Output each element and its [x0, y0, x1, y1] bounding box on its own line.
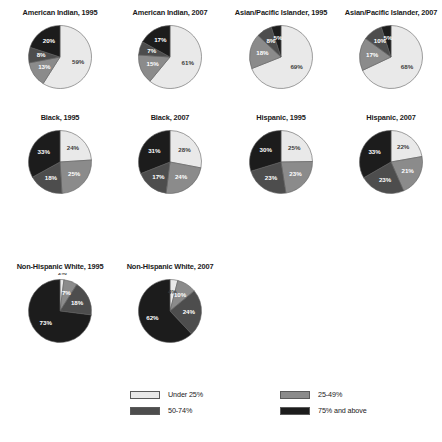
pie-slice-label: 30% — [260, 146, 273, 153]
pie-chart-graphic: 22%21%23%33% — [336, 124, 442, 202]
pie-slice-label: 18% — [71, 299, 84, 306]
legend-item: 25-49% — [280, 390, 342, 399]
legend-item-label: 50-74% — [168, 406, 192, 415]
pie-chart-title: Non-Hispanic White, 2007 — [115, 262, 225, 271]
pie-chart-cell: Asian/Pacific Islander, 200768%17%10%5% — [336, 8, 442, 97]
pie-chart-cell: American Indian, 199559%13%8%20% — [5, 8, 115, 97]
legend-item: 50-74% — [130, 406, 192, 415]
pie-slice-label: 61% — [182, 59, 195, 66]
pie-chart-grid-figure: American Indian, 199559%13%8%20%American… — [0, 0, 442, 442]
pie-chart-title: Non-Hispanic White, 1995 — [5, 262, 115, 271]
pie-slice-label: 59% — [72, 58, 85, 65]
pie-slice-label: 24% — [183, 308, 196, 315]
pie-slice-label: 23% — [379, 176, 392, 183]
pie-chart-cell: Non-Hispanic White, 19952%7%18%73% — [5, 262, 115, 351]
legend-color-swatch — [280, 407, 310, 415]
pie-slice-label: 18% — [256, 49, 269, 56]
pie-slice-label: 17% — [154, 36, 167, 43]
pie-slice-label: 33% — [38, 148, 51, 155]
legend-item-label: 25-49% — [318, 390, 342, 399]
pie-slice-label: 17% — [152, 173, 165, 180]
legend-color-swatch — [280, 391, 310, 399]
pie-slice-label: 17% — [366, 51, 379, 58]
pie-chart-graphic: 25%23%23%30% — [226, 124, 336, 202]
pie-chart-graphic: 28%24%17%31% — [115, 124, 225, 202]
pie-slice-label: 15% — [146, 60, 159, 67]
pie-slice-label: 28% — [178, 146, 191, 153]
pie-slice-label: 73% — [40, 319, 53, 326]
pie-slice-label: 24% — [175, 173, 188, 180]
legend-item-label: Under 25% — [168, 390, 203, 399]
legend-item-label: 75% and above — [318, 406, 367, 415]
pie-slice-label: 25% — [288, 144, 301, 151]
pie-slice-label: 23% — [289, 170, 302, 177]
pie-slice-label: 10% — [174, 291, 187, 298]
pie-chart-graphic: 59%13%8%20% — [5, 19, 115, 97]
pie-chart-graphic: 24%25%18%33% — [5, 124, 115, 202]
pie-slice-label: 62% — [146, 314, 159, 321]
pie-chart-title: Black, 1995 — [5, 113, 115, 122]
pie-chart-title: American Indian, 1995 — [5, 8, 115, 17]
pie-chart-graphic: 61%15%7%17% — [115, 19, 225, 97]
pie-chart-cell: American Indian, 200761%15%7%17% — [115, 8, 225, 97]
pie-slice-label: 2% — [58, 273, 67, 276]
pie-chart-title: Hispanic, 2007 — [336, 113, 442, 122]
pie-chart-graphic: 4%10%24%62% — [115, 273, 225, 351]
pie-slice-label: 23% — [265, 174, 278, 181]
pie-slice-label: 22% — [397, 143, 410, 150]
pie-slice-label: 68% — [401, 63, 414, 70]
pie-slice-label: 7% — [147, 47, 156, 54]
chart-legend: Under 25%25-49%50-74%75% and above — [0, 388, 442, 430]
pie-chart-title: Hispanic, 1995 — [226, 113, 336, 122]
legend-item: Under 25% — [130, 390, 203, 399]
pie-slice-label: 25% — [68, 170, 81, 177]
legend-item: 75% and above — [280, 406, 367, 415]
pie-slice-label: 8% — [37, 51, 46, 58]
pie-slice-label: 7% — [62, 289, 71, 296]
pie-chart-title: Asian/Pacific Islander, 1995 — [226, 8, 336, 17]
legend-color-swatch — [130, 407, 160, 415]
pie-slice-label: 33% — [368, 148, 381, 155]
pie-slice-label: 20% — [43, 37, 56, 44]
pie-slice-label: 18% — [45, 174, 58, 181]
pie-chart-graphic: 69%18%8%5% — [226, 19, 336, 97]
pie-slice-label: 5% — [384, 34, 393, 41]
pie-slice-label: 13% — [38, 63, 51, 70]
pie-slice-label: 21% — [401, 167, 414, 174]
pie-chart-title: American Indian, 2007 — [115, 8, 225, 17]
pie-chart-cell: Non-Hispanic White, 20074%10%24%62% — [115, 262, 225, 351]
pie-slice-label: 5% — [274, 34, 283, 41]
pie-chart-graphic: 2%7%18%73% — [5, 273, 115, 351]
legend-color-swatch — [130, 391, 160, 399]
pie-chart-cell: Black, 200728%24%17%31% — [115, 113, 225, 202]
pie-slice-label: 31% — [148, 147, 161, 154]
pie-slice-label: 24% — [67, 144, 80, 151]
pie-chart-cell: Hispanic, 199525%23%23%30% — [226, 113, 336, 202]
pie-chart-cell: Asian/Pacific Islander, 199569%18%8%5% — [226, 8, 336, 97]
pie-chart-cell: Black, 199524%25%18%33% — [5, 113, 115, 202]
pie-slice-label: 69% — [290, 63, 303, 70]
pie-chart-graphic: 68%17%10%5% — [336, 19, 442, 97]
pie-chart-cell: Hispanic, 200722%21%23%33% — [336, 113, 442, 202]
pie-chart-title: Black, 2007 — [115, 113, 225, 122]
pie-chart-title: Asian/Pacific Islander, 2007 — [336, 8, 442, 17]
